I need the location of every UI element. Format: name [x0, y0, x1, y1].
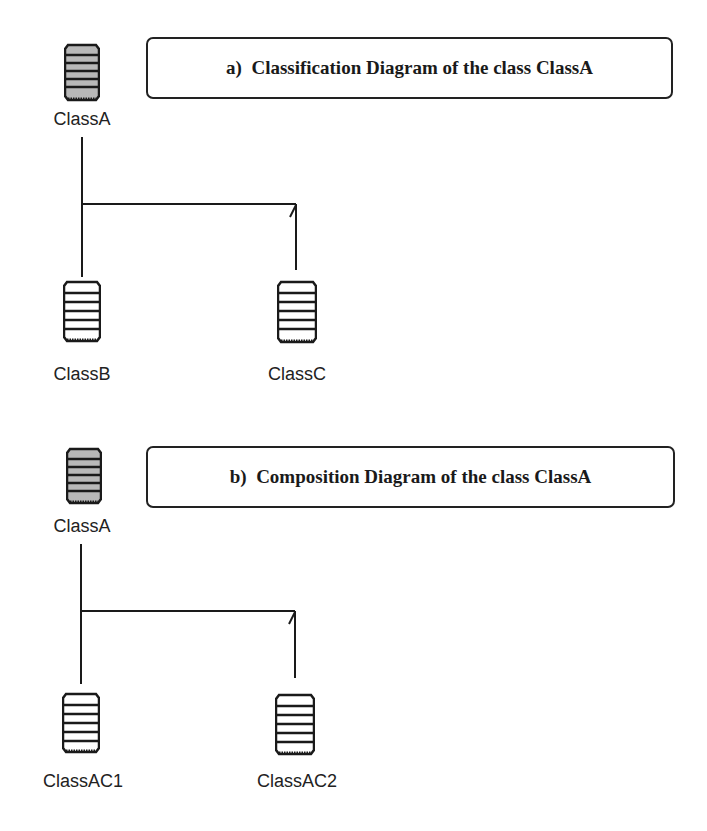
diagram-title-box: b) Composition Diagram of the class Clas… [146, 446, 675, 508]
diagram-title-box: a) Classification Diagram of the class C… [146, 37, 673, 99]
class-label-root: ClassA [53, 516, 110, 537]
class-icon[interactable] [277, 280, 317, 348]
class-label-child: ClassAC2 [257, 771, 337, 792]
diagram-title: b) Composition Diagram of the class Clas… [230, 466, 592, 488]
class-icon-abstract[interactable] [64, 43, 100, 106]
class-label-child: ClassC [268, 364, 326, 385]
class-label-child: ClassB [53, 364, 110, 385]
class-icon[interactable] [63, 280, 101, 347]
diagram-title: a) Classification Diagram of the class C… [226, 57, 593, 79]
class-icon[interactable] [275, 693, 315, 760]
class-label-root: ClassA [53, 109, 110, 130]
class-icon[interactable] [62, 692, 100, 758]
class-label-child: ClassAC1 [43, 771, 123, 792]
class-icon-abstract[interactable] [66, 447, 102, 509]
